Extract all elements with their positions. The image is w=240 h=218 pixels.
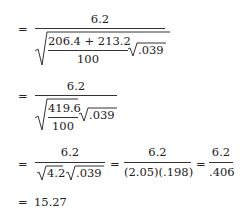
- result-value: 15.27: [34, 197, 67, 209]
- radicand: 4.2: [47, 168, 65, 180]
- radical-sign-icon: [128, 42, 138, 57]
- inner-denominator: 100: [48, 54, 128, 66]
- equals-sign: =: [18, 159, 28, 171]
- equals-sign: =: [18, 24, 28, 36]
- numerator: 6.2: [35, 81, 117, 93]
- fraction-bar: [35, 95, 117, 96]
- fraction-bar: [209, 162, 233, 163]
- numerator: 6.2: [124, 147, 191, 159]
- radicand: .039: [89, 110, 115, 122]
- equals-sign: =: [196, 159, 206, 171]
- inner-fraction-bar: [48, 117, 78, 118]
- inner-numerator: 206.4 + 213.2: [48, 36, 128, 48]
- numerator: 6.2: [35, 14, 165, 26]
- inner-fraction-bar: [48, 50, 128, 51]
- denominator: (2.05)(.198): [124, 167, 191, 179]
- inner-numerator: 419.6: [48, 103, 78, 115]
- radical-sign-icon: [35, 31, 49, 67]
- radical-sign-icon: [35, 98, 49, 134]
- equals-sign: =: [18, 197, 28, 209]
- radical-sign-icon: [79, 107, 89, 122]
- equals-sign: =: [110, 159, 120, 171]
- radical-sign-icon: [37, 165, 47, 181]
- numerator: 6.2: [35, 147, 105, 159]
- radical-sign-icon: [66, 165, 76, 181]
- numerator: 6.2: [209, 147, 233, 159]
- equals-sign: =: [18, 91, 28, 103]
- radicand: .039: [138, 45, 164, 57]
- fraction-bar: [35, 162, 105, 163]
- fraction-bar: [35, 28, 165, 29]
- fraction-bar: [124, 162, 191, 163]
- inner-denominator: 100: [48, 121, 78, 133]
- denominator: .406: [209, 167, 233, 179]
- radicand: .039: [76, 168, 102, 180]
